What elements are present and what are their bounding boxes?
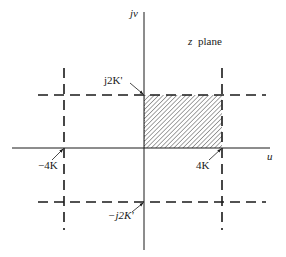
z-plane-diagram: jv u z plane j2K' −j2K' −4K 4K xyxy=(0,0,286,257)
horizontal-axis-label: u xyxy=(267,150,273,162)
label-4K: 4K xyxy=(196,159,210,171)
plane-title-word: plane xyxy=(198,35,222,47)
arrow-4K xyxy=(209,149,221,160)
label-neg-4K: −4K xyxy=(38,159,58,171)
label-j2K: j2K' xyxy=(103,74,123,86)
vertical-axis-label: jv xyxy=(128,7,138,19)
arrow-j2K xyxy=(130,83,143,94)
arrow-neg-j2K xyxy=(132,203,143,212)
plane-title: z plane xyxy=(187,35,222,47)
label-neg-j2K: −j2K' xyxy=(108,209,134,221)
plane-title-variable: z xyxy=(187,35,193,47)
shaded-region xyxy=(144,95,222,148)
